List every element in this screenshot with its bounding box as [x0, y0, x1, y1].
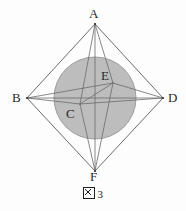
- vertex-label-e: E: [101, 69, 109, 82]
- vertex-label-c: C: [66, 107, 75, 120]
- vertex-dot-A: [94, 23, 96, 25]
- vertex-label-f: F: [90, 170, 97, 183]
- figure-caption: 3: [0, 186, 186, 200]
- figure-container: A B C D E F 3: [0, 0, 186, 211]
- vertex-dot-D: [162, 97, 164, 99]
- vertex-label-d: D: [168, 91, 177, 104]
- vertex-dot-B: [26, 97, 28, 99]
- figure-number: 3: [98, 188, 104, 200]
- geometry-diagram: [0, 0, 186, 186]
- vertex-label-b: B: [12, 91, 21, 104]
- vertex-label-a: A: [89, 7, 98, 20]
- figure-symbol-icon: [83, 187, 95, 199]
